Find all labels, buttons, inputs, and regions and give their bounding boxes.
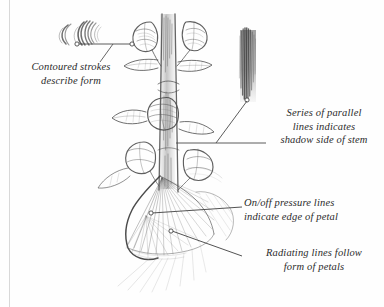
- drawing-page: Contoured strokes describe form Series o…: [0, 0, 384, 307]
- drawing-canvas: [0, 0, 384, 307]
- vertical-hatching-swatch: [239, 28, 256, 102]
- page-background: [0, 0, 384, 307]
